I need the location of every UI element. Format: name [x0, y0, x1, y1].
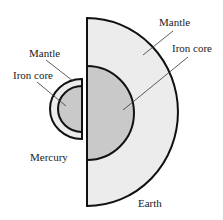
- earth-cross-section: [87, 18, 178, 206]
- planet-interior-diagram: Mantle Iron core Mantle Iron core Mercur…: [0, 0, 223, 220]
- mercury-cross-section: [50, 79, 82, 139]
- earth-name-label: Earth: [138, 197, 162, 209]
- earth-mantle-label: Mantle: [159, 16, 190, 28]
- mercury-mantle-label: Mantle: [29, 47, 60, 59]
- mercury-core-label: Iron core: [13, 69, 53, 81]
- earth-core-label: Iron core: [172, 42, 212, 54]
- mercury-name-label: Mercury: [30, 151, 68, 163]
